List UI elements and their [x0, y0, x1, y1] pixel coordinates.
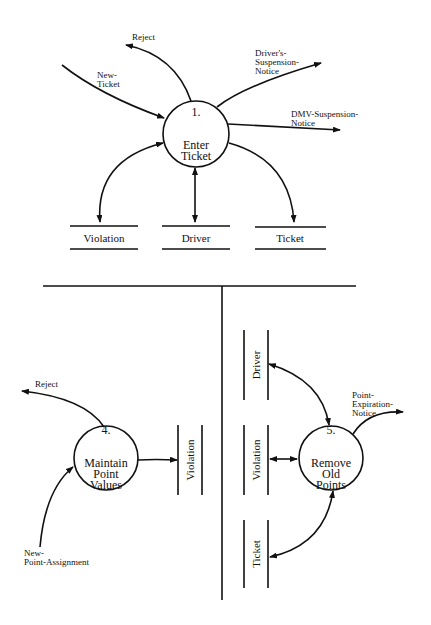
store-violation-4: Violation	[184, 440, 196, 481]
store-violation: Violation	[84, 232, 125, 244]
flow-label-dmv-suspension-notice: DMV-Suspension- Notice	[291, 110, 358, 128]
flow-label-reject-4: Reject	[35, 380, 58, 389]
store-driver-5: Driver	[250, 351, 262, 380]
store-ticket-5: Ticket	[250, 540, 262, 568]
process-name: Maintain Point Values	[84, 458, 127, 491]
flow-label-new-ticket: New- Ticket	[97, 71, 120, 89]
flow-violation-4-arrow	[138, 460, 177, 461]
flow-violation-store-arrow	[100, 143, 163, 222]
process-remove-old-points: 5. Remove Old Points	[311, 403, 351, 513]
flow-label-point-expiration-notice: Point- Expiration- Notice	[352, 391, 393, 418]
process-name: Remove Old Points	[311, 458, 351, 491]
flow-label-drivers-suspension-notice: Driver's- Suspension- Notice	[255, 49, 299, 76]
process-maintain-point-values: 4. Maintain Point Values	[84, 403, 127, 513]
flow-ticket-store-arrow	[229, 143, 294, 222]
process-number: 4.	[84, 425, 127, 436]
diagram-canvas	[0, 0, 431, 625]
flow-label-new-point-assignment: New- Point-Assignment	[24, 549, 89, 567]
process-enter-ticket: 1. Enter Ticket	[181, 85, 211, 184]
process-name: Enter Ticket	[181, 140, 211, 162]
process-number: 5.	[311, 425, 351, 436]
process-number: 1.	[181, 107, 211, 118]
flow-new-point-assignment-arrow	[40, 467, 73, 547]
store-ticket: Ticket	[276, 232, 304, 244]
store-violation-5: Violation	[250, 440, 262, 481]
data-flow-diagram: Reject New- Ticket Driver's- Suspension-…	[0, 0, 431, 625]
store-driver: Driver	[182, 232, 211, 244]
flow-label-reject: Reject	[132, 33, 155, 42]
